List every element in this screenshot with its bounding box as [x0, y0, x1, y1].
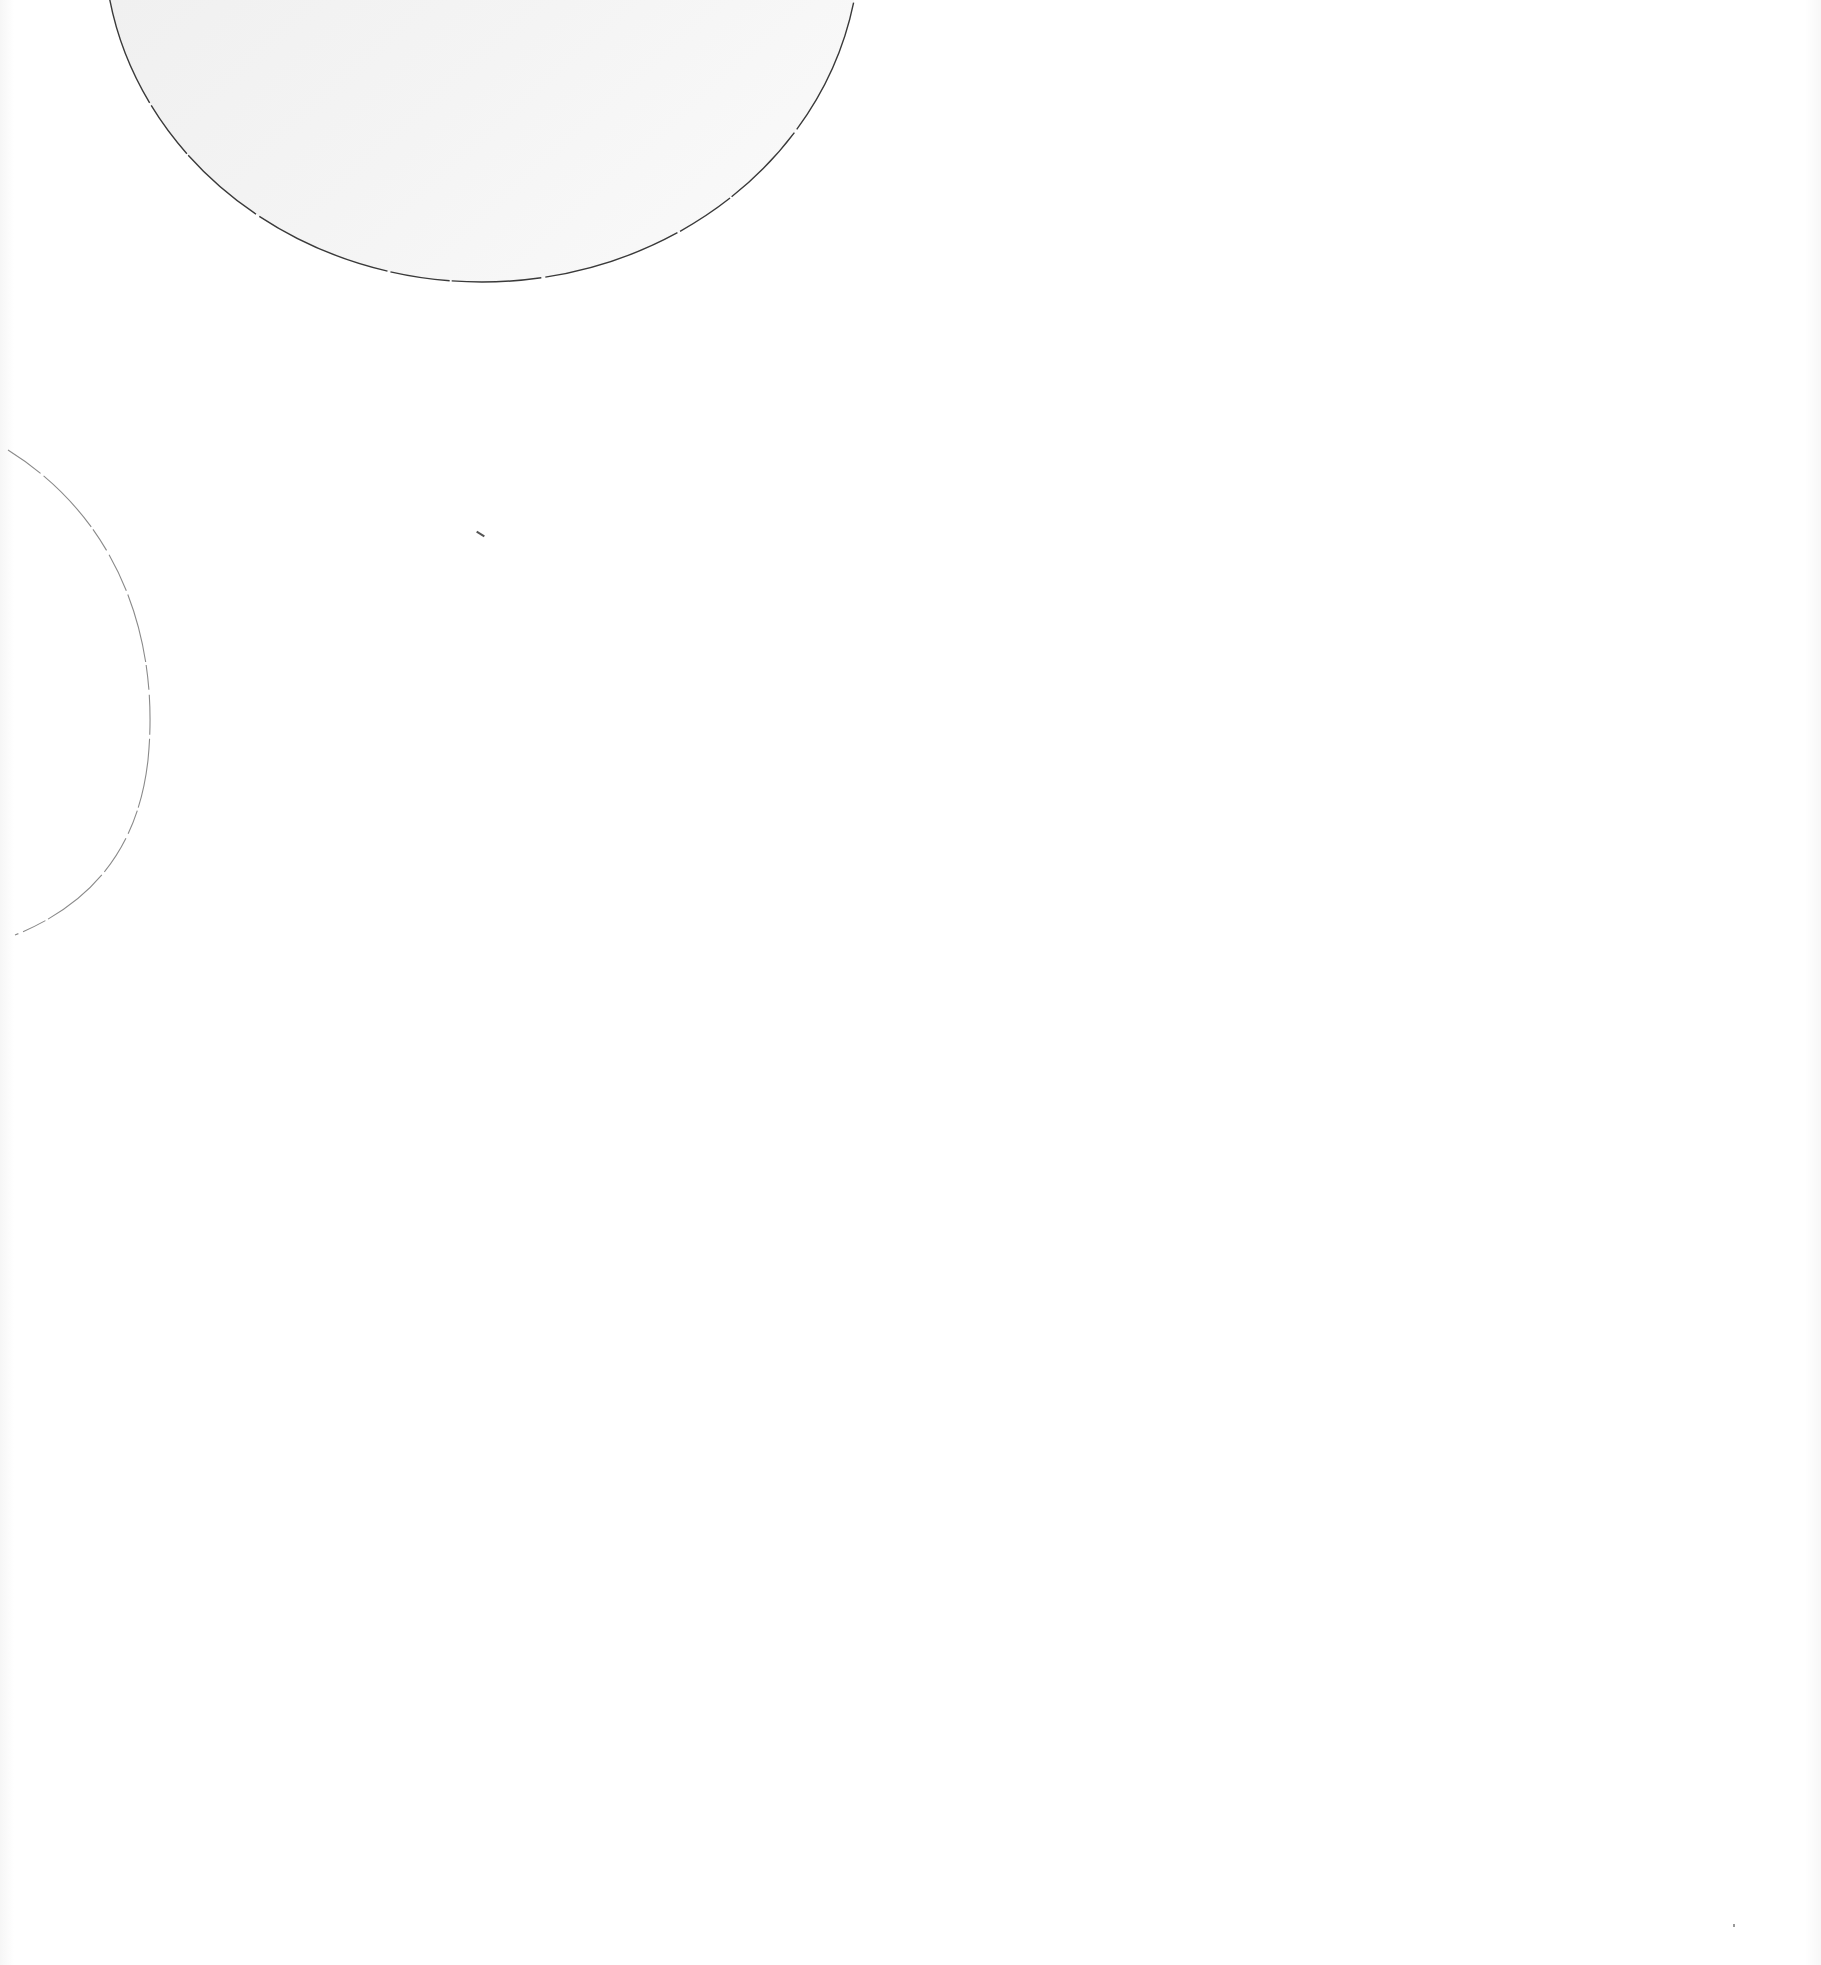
scanned-sheet	[0, 0, 1821, 1965]
top-semicircle-shape	[104, 0, 860, 282]
partial-circles	[0, 0, 1821, 1965]
stray-dot	[1733, 1924, 1735, 1927]
left-arc-shape	[8, 450, 150, 935]
